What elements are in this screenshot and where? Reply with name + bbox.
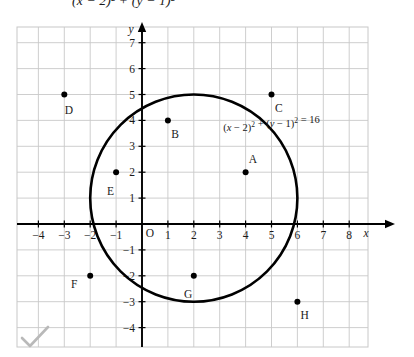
x-tick-label: 5 — [269, 229, 275, 241]
point-label: D — [65, 104, 73, 116]
y-axis-letter: y — [127, 23, 134, 36]
point-marker — [113, 169, 119, 175]
y-tick-label: −1 — [123, 244, 135, 256]
x-tick-label: −3 — [58, 229, 70, 241]
plot-point-e: E — [107, 169, 119, 197]
x-tick-label: 7 — [320, 229, 326, 241]
checkmark-icon — [22, 327, 48, 346]
y-tick-label: 5 — [129, 89, 135, 101]
x-tick-label: 6 — [295, 229, 301, 241]
point-label: A — [249, 153, 258, 165]
point-marker — [61, 92, 67, 98]
y-tick-label: 6 — [129, 63, 135, 75]
axes: xy — [17, 22, 395, 347]
x-tick-label: 1 — [165, 229, 171, 241]
point-marker — [243, 169, 249, 175]
y-tick-label: 2 — [129, 166, 135, 178]
x-axis-arrowhead — [385, 220, 395, 228]
point-label: B — [171, 128, 179, 140]
x-tick-label: 3 — [217, 229, 223, 241]
y-tick-label: −4 — [123, 322, 135, 334]
axis-tick-labels: −4−3−2−1123456787654321−1−2−3−4O — [32, 37, 352, 334]
plot-point-g: G — [184, 273, 197, 301]
point-label: C — [275, 102, 283, 114]
grid-border — [17, 27, 368, 347]
point-label: G — [184, 288, 192, 300]
point-label: E — [107, 185, 114, 197]
point-label: F — [71, 278, 77, 290]
point-marker — [269, 92, 275, 98]
plot-point-d: D — [61, 92, 73, 116]
y-tick-label: 1 — [129, 192, 135, 204]
checkmark-watermark — [22, 327, 48, 346]
y-tick-label: 7 — [129, 37, 135, 49]
y-tick-label: −3 — [123, 296, 135, 308]
x-tick-label: −4 — [32, 229, 44, 241]
point-marker — [165, 117, 171, 123]
x-tick-label: 8 — [346, 229, 352, 241]
point-marker — [87, 273, 93, 279]
coordinate-graph: xy −4−3−2−1123456787654321−1−2−3−4O ABCD… — [0, 0, 414, 357]
x-axis-letter: x — [362, 227, 369, 239]
origin-label: O — [146, 227, 154, 239]
x-tick-label: 2 — [191, 229, 197, 241]
figure-page: (x − 2)² + (y − 1)² xy −4−3−2−1123456787… — [0, 0, 414, 357]
point-marker — [191, 273, 197, 279]
point-marker — [294, 299, 300, 305]
grid-lines — [17, 27, 368, 347]
point-label: H — [300, 309, 308, 321]
x-tick-label: −1 — [110, 229, 122, 241]
x-tick-label: 4 — [243, 229, 249, 241]
y-tick-label: 3 — [129, 140, 135, 152]
